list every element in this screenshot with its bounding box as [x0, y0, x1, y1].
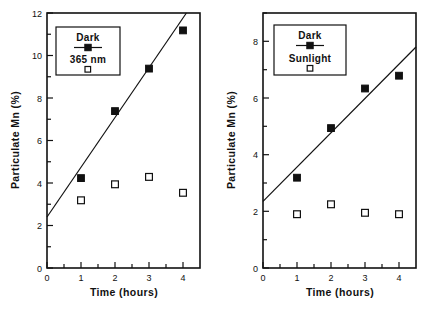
series-365nm-markers: [78, 174, 187, 204]
right-chart-svg: 0 2 4 6 8 0 1 2 3 4: [218, 0, 437, 325]
series-sunlight-markers: [294, 201, 403, 218]
y-axis-major-ticks: [263, 41, 269, 268]
chart-panel-left: 0 2 4 6 8 10 12 0 1 2: [0, 0, 218, 325]
y-axis-major-ticks: [47, 13, 53, 268]
legend-label-dark: Dark: [298, 30, 322, 41]
y-tick-label: 6: [253, 94, 258, 104]
x-tick-label: 3: [362, 273, 367, 283]
x-tick-label: 0: [44, 273, 49, 283]
y-tick-label: 4: [253, 150, 258, 160]
y-tick-label: 10: [32, 51, 42, 61]
x-axis-major-ticks: [47, 262, 183, 268]
x-tick-label: 3: [146, 273, 151, 283]
y-axis-title: Particulate Mn (%): [225, 91, 237, 189]
legend-dark-marker-icon: [307, 42, 313, 48]
y-tick-label: 12: [32, 9, 42, 19]
x-axis-major-ticks: [263, 262, 399, 268]
y-tick-label: 2: [253, 207, 258, 217]
x-tick-label: 0: [260, 273, 265, 283]
legend-dark-marker-icon: [85, 44, 91, 50]
x-tick-label: 1: [294, 273, 299, 283]
y-tick-label: 2: [37, 221, 42, 231]
chart-panel-right: 0 2 4 6 8 0 1 2 3 4: [218, 0, 436, 325]
y-tick-label: 0: [37, 264, 42, 274]
legend: Dark 365 nm: [56, 27, 120, 75]
legend: Dark Sunlight: [274, 25, 346, 75]
y-tick-label: 8: [253, 37, 258, 47]
x-axis-title: Time (hours): [306, 286, 374, 298]
x-tick-label: 4: [396, 273, 401, 283]
series-dark-markers: [294, 72, 403, 181]
legend-sunlight-marker-icon: [307, 66, 313, 72]
figure-two-panel-scatter: 0 2 4 6 8 10 12 0 1 2: [0, 0, 437, 325]
legend-label-sunlight: Sunlight: [289, 53, 332, 64]
y-tick-label: 8: [37, 94, 42, 104]
y-tick-label: 0: [253, 264, 258, 274]
y-tick-label: 6: [37, 136, 42, 146]
x-axis-title: Time (hours): [90, 286, 158, 298]
x-tick-label: 4: [180, 273, 185, 283]
y-tick-label: 4: [37, 179, 42, 189]
y-axis-title: Particulate Mn (%): [9, 91, 21, 189]
x-tick-label: 1: [78, 273, 83, 283]
legend-label-dark: Dark: [76, 32, 100, 43]
legend-365nm-marker-icon: [85, 67, 91, 73]
x-tick-label: 2: [112, 273, 117, 283]
left-chart-svg: 0 2 4 6 8 10 12 0 1 2: [0, 0, 218, 325]
legend-label-365nm: 365 nm: [70, 54, 106, 65]
x-tick-label: 2: [328, 273, 333, 283]
